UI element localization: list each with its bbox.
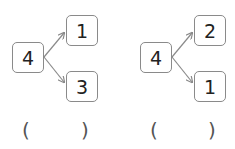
part-bottom-number: 1 — [204, 76, 216, 98]
answer-2-open-paren: ( — [150, 118, 158, 142]
number-bond-diagram-1: 4 1 3 — [0, 0, 118, 110]
part-top-number: 2 — [204, 20, 216, 42]
whole-number-box: 4 — [12, 42, 44, 73]
whole-number: 4 — [22, 47, 34, 69]
part-bottom-number: 3 — [76, 76, 88, 98]
part-top-box: 2 — [194, 15, 226, 46]
part-top-box: 1 — [66, 15, 98, 46]
answer-1-close-paren: ) — [81, 118, 89, 142]
answer-1-open-paren: ( — [22, 118, 30, 142]
whole-number-box: 4 — [140, 42, 172, 73]
whole-number: 4 — [150, 47, 162, 69]
number-bond-diagram-2: 4 2 1 — [127, 0, 235, 110]
part-top-number: 1 — [76, 20, 88, 42]
part-bottom-box: 1 — [194, 71, 226, 102]
answer-2-close-paren: ) — [208, 118, 216, 142]
part-bottom-box: 3 — [66, 71, 98, 102]
